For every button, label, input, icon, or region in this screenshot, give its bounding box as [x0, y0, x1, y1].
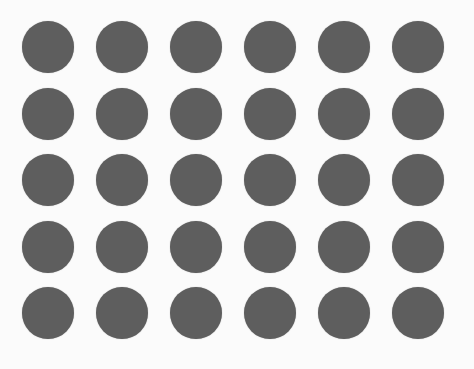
circle-dot [22, 88, 74, 140]
circle-dot [244, 154, 296, 206]
circle-dot [96, 221, 148, 273]
circle-dot [96, 154, 148, 206]
dot-grid [0, 0, 474, 369]
circle-dot [170, 221, 222, 273]
circle-dot [170, 21, 222, 73]
circle-dot [392, 88, 444, 140]
circle-dot [244, 21, 296, 73]
circle-dot [244, 287, 296, 339]
circle-dot [392, 21, 444, 73]
circle-dot [244, 221, 296, 273]
circle-dot [318, 154, 370, 206]
circle-dot [96, 287, 148, 339]
circle-dot [170, 154, 222, 206]
circle-dot [392, 154, 444, 206]
circle-dot [96, 88, 148, 140]
circle-dot [318, 287, 370, 339]
circle-dot [392, 221, 444, 273]
circle-dot [22, 21, 74, 73]
circle-dot [244, 88, 296, 140]
circle-dot [170, 287, 222, 339]
circle-dot [96, 21, 148, 73]
circle-dot [22, 287, 74, 339]
circle-dot [22, 154, 74, 206]
circle-dot [318, 221, 370, 273]
circle-dot [318, 21, 370, 73]
circle-dot [318, 88, 370, 140]
circle-dot [170, 88, 222, 140]
circle-dot [392, 287, 444, 339]
circle-dot [22, 221, 74, 273]
